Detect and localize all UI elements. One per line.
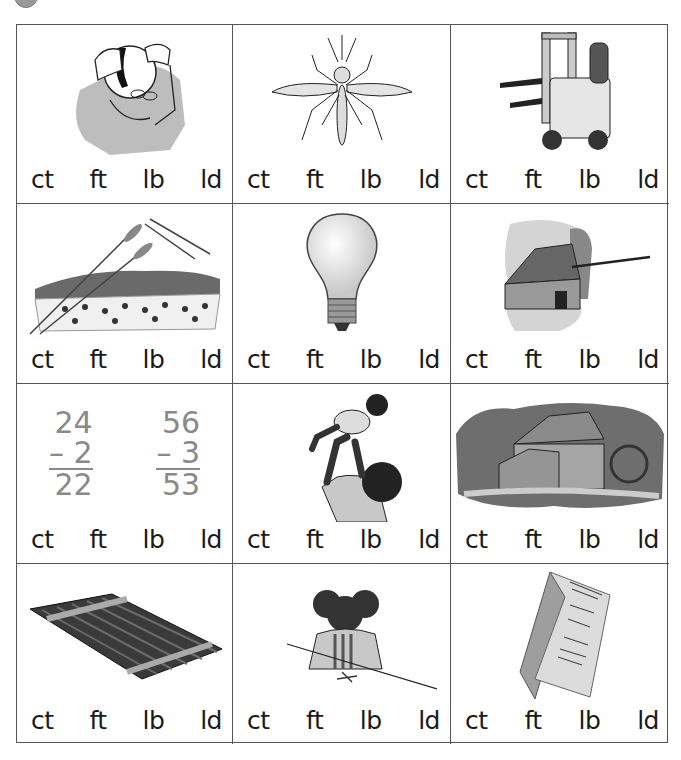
cell-subtraction: 24 – 2 22 56 – 3 53 ct ft lb ld	[17, 384, 233, 564]
cell-leaflet: ct ft lb ld	[451, 564, 669, 744]
option-ld[interactable]: ld	[637, 343, 659, 377]
option-lb[interactable]: lb	[578, 704, 600, 738]
option-ct[interactable]: ct	[465, 163, 488, 197]
cell-man: ct ft lb ld	[17, 25, 233, 204]
cell-forklift: ct ft lb ld	[451, 25, 669, 204]
cell-barn: ct ft lb ld	[451, 204, 669, 384]
option-ld[interactable]: ld	[637, 163, 659, 197]
option-ct[interactable]: ct	[247, 704, 270, 738]
barn-picture	[451, 208, 669, 340]
answer-options: ct ft lb ld	[233, 343, 450, 377]
option-ct[interactable]: ct	[31, 343, 54, 377]
option-ft[interactable]: ft	[524, 704, 541, 738]
option-lb[interactable]: lb	[360, 163, 382, 197]
option-ld[interactable]: ld	[200, 343, 222, 377]
worksheet-grid: ct ft lb ld ct ft lb ld	[16, 24, 668, 743]
mosquito-picture	[233, 29, 450, 161]
option-ct[interactable]: ct	[465, 704, 488, 738]
option-ft[interactable]: ft	[306, 523, 323, 557]
forklift-picture	[451, 29, 669, 161]
option-ld[interactable]: ld	[200, 163, 222, 197]
option-lb[interactable]: lb	[142, 523, 164, 557]
option-ct[interactable]: ct	[31, 704, 54, 738]
option-ld[interactable]: ld	[637, 523, 659, 557]
option-ct[interactable]: ct	[247, 523, 270, 557]
number-circle-icon	[14, 0, 38, 8]
option-lb[interactable]: lb	[142, 343, 164, 377]
option-lb[interactable]: lb	[578, 163, 600, 197]
option-ld[interactable]: ld	[418, 343, 440, 377]
subtraction-problem-1: 24 – 2 22	[49, 408, 93, 500]
leaflet-picture	[451, 568, 669, 700]
cell-mill: ct ft lb ld	[451, 384, 669, 564]
answer-options: ct ft lb ld	[451, 163, 669, 197]
option-ld[interactable]: ld	[418, 704, 440, 738]
answer-options: ct ft lb ld	[17, 163, 232, 197]
answer-options: ct ft lb ld	[451, 523, 669, 557]
option-lb[interactable]: lb	[360, 523, 382, 557]
option-lb[interactable]: lb	[578, 523, 600, 557]
option-ct[interactable]: ct	[31, 163, 54, 197]
option-ct[interactable]: ct	[31, 523, 54, 557]
option-ld[interactable]: ld	[637, 704, 659, 738]
option-lb[interactable]: lb	[360, 704, 382, 738]
girl-scissors-picture	[233, 568, 450, 700]
option-ct[interactable]: ct	[247, 163, 270, 197]
answer-options: ct ft lb ld	[451, 343, 669, 377]
option-ld[interactable]: ld	[200, 523, 222, 557]
answer-options: ct ft lb ld	[17, 343, 232, 377]
option-lb[interactable]: lb	[578, 343, 600, 377]
option-ct[interactable]: ct	[465, 523, 488, 557]
answer-options: ct ft lb ld	[233, 704, 450, 738]
answer-options: ct ft lb ld	[451, 704, 669, 738]
option-ft[interactable]: ft	[89, 163, 106, 197]
cell-mosquito: ct ft lb ld	[233, 25, 451, 204]
option-ct[interactable]: ct	[465, 343, 488, 377]
option-ft[interactable]: ft	[524, 343, 541, 377]
cell-wheat-field: ct ft lb ld	[17, 204, 233, 384]
father-child-picture	[233, 388, 450, 520]
mill-picture	[451, 388, 669, 520]
option-lb[interactable]: lb	[360, 343, 382, 377]
option-ld[interactable]: ld	[418, 163, 440, 197]
man-picture	[17, 29, 232, 161]
answer-options: ct ft lb ld	[17, 523, 232, 557]
option-lb[interactable]: lb	[142, 163, 164, 197]
cell-girl-scissors: ct ft lb ld	[233, 564, 451, 744]
option-ft[interactable]: ft	[524, 163, 541, 197]
option-ld[interactable]: ld	[200, 704, 222, 738]
light-bulb-picture	[233, 208, 450, 340]
option-ft[interactable]: ft	[89, 523, 106, 557]
option-ft[interactable]: ft	[306, 704, 323, 738]
option-ft[interactable]: ft	[306, 343, 323, 377]
option-ft[interactable]: ft	[524, 523, 541, 557]
option-lb[interactable]: lb	[142, 704, 164, 738]
option-ld[interactable]: ld	[418, 523, 440, 557]
option-ft[interactable]: ft	[306, 163, 323, 197]
raft-picture	[17, 568, 232, 700]
subtraction-problem-2: 56 – 3 53	[156, 408, 200, 500]
answer-options: ct ft lb ld	[233, 163, 450, 197]
wheat-field-picture	[17, 208, 232, 340]
option-ct[interactable]: ct	[247, 343, 270, 377]
answer-options: ct ft lb ld	[233, 523, 450, 557]
option-ft[interactable]: ft	[89, 343, 106, 377]
cell-father-child: ct ft lb ld	[233, 384, 451, 564]
subtraction-picture: 24 – 2 22 56 – 3 53	[17, 388, 232, 520]
option-ft[interactable]: ft	[89, 704, 106, 738]
cell-raft: ct ft lb ld	[17, 564, 233, 744]
answer-options: ct ft lb ld	[17, 704, 232, 738]
cell-light-bulb: ct ft lb ld	[233, 204, 451, 384]
